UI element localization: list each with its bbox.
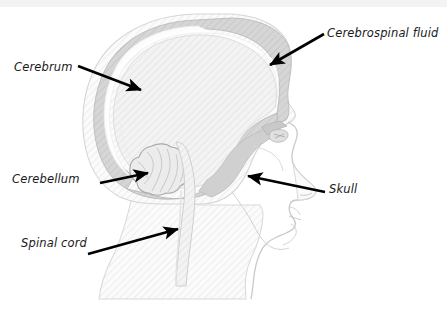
label-cerebrospinal-fluid: Cerebrospinal fluid [327,26,439,40]
upper-lip [290,207,300,215]
label-cerebellum: Cerebellum [12,172,80,186]
mouth-line [289,216,301,220]
diagram-canvas: Cerebrum Cerebrospinal fluid Cerebellum … [0,0,447,312]
label-cerebrum: Cerebrum [14,60,73,74]
label-skull: Skull [329,182,357,196]
orbital-socket [269,130,288,143]
label-spinal-cord: Spinal cord [21,236,87,250]
nose-shape [293,163,316,200]
skull-arrow [248,176,325,192]
head-anatomy-illustration [0,0,447,312]
